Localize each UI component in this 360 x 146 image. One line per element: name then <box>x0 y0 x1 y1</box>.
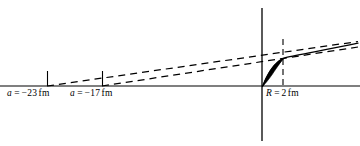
label-R-unit: fm <box>288 88 299 98</box>
label-a1-variable: a <box>7 88 13 98</box>
asymptote-triplet-line <box>47 42 358 87</box>
label-a2-variable: a <box>70 88 76 98</box>
label-scattering-length-triplet: a=−23fm <box>7 88 50 99</box>
label-a1-unit: fm <box>38 88 49 98</box>
scattering-length-figure: a=−23fm a=−17fm R=2fm <box>0 0 360 146</box>
asymptote-singlet-line <box>102 47 358 86</box>
label-a2-unit: fm <box>101 88 112 98</box>
label-R-variable: R <box>266 88 273 98</box>
label-interaction-radius: R=2fm <box>266 88 299 99</box>
label-scattering-length-singlet: a=−17fm <box>70 88 113 99</box>
label-a2-value: −17 <box>84 88 101 98</box>
plot-area <box>0 0 360 146</box>
label-a1-value: −23 <box>21 88 38 98</box>
